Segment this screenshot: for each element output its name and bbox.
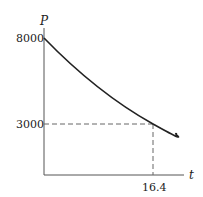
decay-curve	[44, 38, 179, 137]
y-tick-8000: 8000	[16, 32, 44, 45]
chart: P 8000 3000 16.4 t	[0, 0, 203, 197]
y-axis-label: P	[39, 14, 49, 28]
x-tick-16-4: 16.4	[142, 181, 167, 194]
x-axis-label: t	[189, 168, 194, 182]
y-tick-3000: 3000	[16, 118, 44, 131]
